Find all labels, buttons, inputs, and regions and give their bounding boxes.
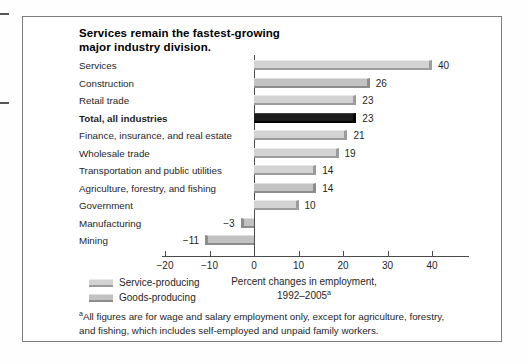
bar-goods [241,218,254,228]
x-tick [343,251,344,256]
x-tick [254,251,255,256]
x-tick-label: 30 [371,260,405,271]
category-label: Retail trade [79,92,129,110]
page: Services remain the fastest-growing majo… [0,0,528,364]
x-tick-label: 20 [326,260,360,271]
x-axis-title-line1: Percent changes in employment, [184,276,424,288]
figure-box: Services remain the fastest-growing majo… [22,16,502,342]
x-tick [210,251,211,256]
category-label: Manufacturing [79,215,141,233]
bar-value-label: 14 [322,182,333,195]
bar-goods [254,78,370,88]
category-label: Construction [79,75,134,93]
bar-value-label: 23 [362,112,373,125]
x-axis-title-footnote-marker: a [327,289,331,296]
bar-total [254,113,356,123]
footnote-text2: and fishing, which includes self-employe… [79,324,493,338]
legend-label: Service-producing [119,275,200,290]
page-edge-mark [0,13,9,15]
x-tick [432,251,433,256]
page-edge-mark [0,102,9,104]
x-tick-label: 10 [282,260,316,271]
bar-value-label: 23 [362,94,373,107]
bar-value-label: 40 [438,59,449,72]
x-tick-label: 0 [237,260,271,271]
x-tick-label: 40 [415,260,449,271]
x-axis-title-line2: 1992–2005a [184,290,424,302]
bar-value-label: −11 [169,234,199,247]
category-label: Finance, insurance, and real estate [79,127,232,145]
bar-value-label: 26 [376,77,387,90]
bar-value-label: −3 [205,217,235,230]
legend-label: Goods-producing [119,290,196,305]
bar-value-label: 19 [345,147,356,160]
category-label: Services [79,57,117,75]
x-tick-label: −10 [193,260,227,271]
category-label: Transportation and public utilities [79,162,222,180]
category-label: Mining [79,232,108,250]
goods-producing-swatch [89,294,113,302]
bar-service [254,148,339,158]
x-tick [165,251,166,256]
bar-value-label: 21 [353,129,364,142]
category-label: Wholesale trade [79,145,150,163]
bar-service [254,130,347,140]
bar-value-label: 10 [305,199,316,212]
x-tick [388,251,389,256]
category-label: Agriculture, forestry, and fishing [79,180,216,198]
x-axis-line [162,256,469,257]
service-producing-swatch [89,279,113,287]
bar-service [254,200,299,210]
bar-goods [254,183,316,193]
x-axis-title-years: 1992–2005 [277,290,327,301]
bar-service [254,95,356,105]
footnote: aAll figures are for wage and salary emp… [79,310,493,337]
bar-service [254,165,316,175]
bar-value-label: 14 [322,164,333,177]
category-label: Total, all industries [79,110,168,128]
footnote-text1: All figures are for wage and salary empl… [83,311,444,322]
bar-service [254,60,432,70]
bar-goods [205,235,254,245]
category-label: Government [79,197,133,215]
x-tick [299,251,300,256]
footnote-line1: aAll figures are for wage and salary emp… [79,310,493,324]
x-tick-label: −20 [148,260,182,271]
x-axis-title: Percent changes in employment, 1992–2005… [184,276,424,302]
